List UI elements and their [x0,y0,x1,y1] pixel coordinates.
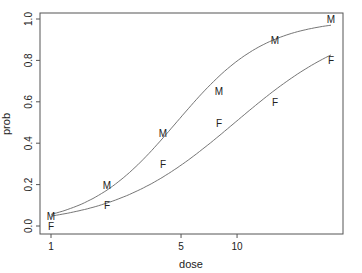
x-axis: 1510 [48,234,243,252]
point-marker-M: M [327,14,335,25]
y-tick-label: 0.8 [23,53,34,67]
point-marker-M: M [271,35,279,46]
point-marker-F: F [272,97,278,108]
point-marker-F: F [216,118,222,129]
point-marker-M: M [159,128,167,139]
y-tick-label: 0.0 [23,219,34,233]
point-marker-F: F [328,55,334,66]
point-marker-F: F [160,159,166,170]
data-points: MMMMMMFFFFFF [47,14,335,232]
y-axis: 0.00.20.40.60.81.0 [23,12,40,233]
fit-curve-F [51,55,331,216]
point-marker-M: M [103,180,111,191]
y-tick-label: 1.0 [23,12,34,26]
x-tick-label: 10 [231,241,243,252]
fitted-curves [51,25,331,216]
point-marker-M: M [47,211,55,222]
y-tick-label: 0.6 [23,94,34,108]
dose-response-chart: 0.00.20.40.60.81.0 1510 MMMMMMFFFFFF dos… [0,0,362,273]
point-marker-F: F [104,200,110,211]
x-axis-label: dose [179,258,203,270]
plot-frame [40,13,343,234]
x-tick-label: 1 [48,241,54,252]
point-marker-M: M [215,86,223,97]
y-tick-label: 0.2 [23,177,34,191]
fit-curve-M [51,25,331,214]
y-tick-label: 0.4 [23,136,34,150]
y-axis-label: prob [0,113,12,135]
x-tick-label: 5 [178,241,184,252]
point-marker-F: F [48,221,54,232]
